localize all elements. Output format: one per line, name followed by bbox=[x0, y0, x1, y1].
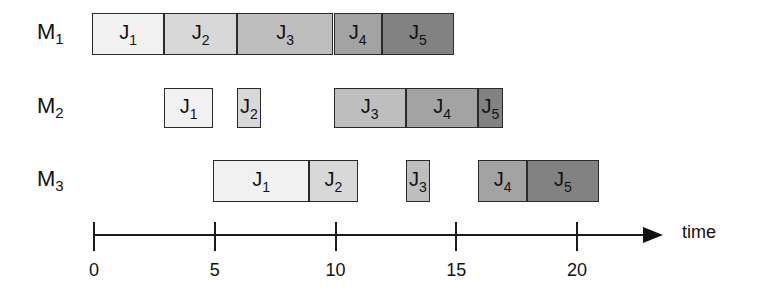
task-bar-m1-j4: J4 bbox=[334, 13, 382, 55]
task-bar-m2-j3: J3 bbox=[334, 88, 406, 128]
task-bar-m2-j2: J2 bbox=[237, 88, 261, 128]
axis-tick bbox=[576, 222, 578, 251]
axis-tick-label: 20 bbox=[567, 260, 587, 281]
task-bar-m3-j5: J5 bbox=[527, 160, 599, 202]
task-bar-m1-j3: J3 bbox=[237, 13, 334, 55]
task-bar-m1-j1: J1 bbox=[92, 13, 164, 55]
axis-tick-label: 5 bbox=[210, 260, 220, 281]
machine-label-m2: M2 bbox=[37, 95, 64, 124]
axis-tick-label: 15 bbox=[446, 260, 466, 281]
task-bar-m3-j4: J4 bbox=[478, 160, 526, 202]
task-bar-m2-j1: J1 bbox=[164, 88, 212, 128]
task-bar-m1-j2: J2 bbox=[164, 13, 236, 55]
axis-tick-label: 0 bbox=[89, 260, 99, 281]
axis-tick bbox=[214, 222, 216, 251]
axis-tick-label: 10 bbox=[325, 260, 345, 281]
time-axis-line bbox=[94, 234, 650, 236]
axis-arrow-icon bbox=[643, 227, 663, 243]
axis-tick bbox=[335, 222, 337, 251]
task-bar-m2-j5: J5 bbox=[478, 88, 502, 128]
axis-tick bbox=[455, 222, 457, 251]
task-bar-m3-j1: J1 bbox=[213, 160, 310, 202]
task-bar-m2-j4: J4 bbox=[406, 88, 478, 128]
machine-label-m3: M3 bbox=[37, 168, 64, 197]
axis-tick bbox=[93, 222, 95, 251]
task-bar-m3-j2: J2 bbox=[309, 160, 357, 202]
task-bar-m1-j5: J5 bbox=[382, 13, 454, 55]
machine-label-m1: M1 bbox=[37, 21, 64, 50]
axis-title: time bbox=[682, 222, 716, 243]
task-bar-m3-j3: J3 bbox=[406, 160, 430, 202]
